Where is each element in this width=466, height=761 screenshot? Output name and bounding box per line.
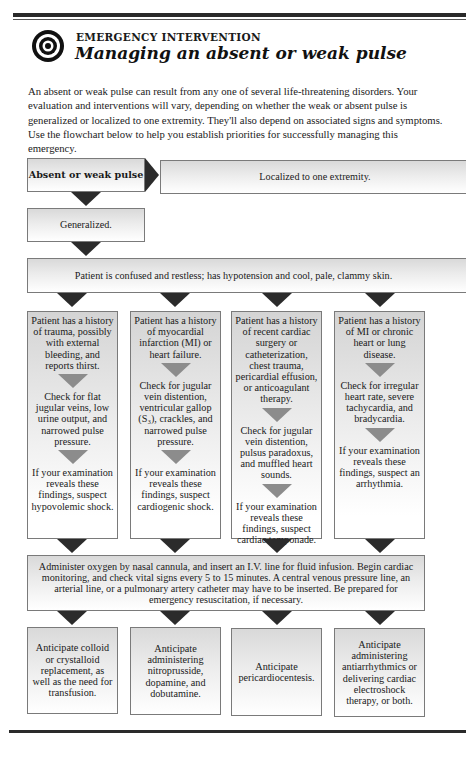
localized-label: Localized to one extremity. xyxy=(259,171,370,182)
arrow-down-icon xyxy=(262,539,292,553)
check-text: Check for jugular vein distention, ventr… xyxy=(134,380,217,447)
anticipate-text: Anticipate colloid or crystalloid replac… xyxy=(31,642,114,698)
check-text: Check for irregular heart rate, severe t… xyxy=(338,380,421,425)
arrow-down-icon xyxy=(71,192,101,206)
arrow-down-icon xyxy=(160,293,190,307)
suspect-text: If your examination reveals these findin… xyxy=(338,445,421,490)
localized-box: Localized to one extremity. xyxy=(160,160,466,194)
presentation-label: Patient is confused and restless; has hy… xyxy=(75,270,392,281)
arrow-right-icon xyxy=(145,158,159,192)
suspect-text: If your examination reveals these findin… xyxy=(134,467,217,512)
anticipate-box-3: Anticipate pericardiocentesis. xyxy=(231,628,322,716)
arrow-down-icon xyxy=(161,363,191,377)
start-label: Absent or weak pulse xyxy=(29,169,144,180)
arrow-down-icon xyxy=(365,539,395,553)
history-text: Patient has a history of MI or chronic h… xyxy=(338,315,421,360)
arrow-down-icon xyxy=(365,428,395,442)
generalized-label: Generalized. xyxy=(60,219,112,230)
history-text: Patient has a history of trauma, possibl… xyxy=(31,315,114,371)
arrow-down-icon xyxy=(262,611,292,625)
history-text: Patient has a history of recent cardiac … xyxy=(235,315,318,405)
assessment-column-3: Patient has a history of recent cardiac … xyxy=(231,311,322,539)
arrow-down-icon xyxy=(57,293,87,307)
arrow-down-icon xyxy=(262,293,292,307)
arrow-down-icon xyxy=(365,293,395,307)
anticipate-text: Anticipate administering antiarrhythmics… xyxy=(338,639,421,706)
presentation-box: Patient is confused and restless; has hy… xyxy=(27,258,466,293)
anticipate-text: Anticipate administering nitroprusside, … xyxy=(134,643,217,699)
arrow-down-icon xyxy=(57,539,87,553)
generalized-box: Generalized. xyxy=(27,208,145,242)
page-title: Managing an absent or weak pulse xyxy=(75,43,407,63)
assessment-column-4: Patient has a history of MI or chronic h… xyxy=(334,311,425,539)
common-intervention-text: Administer oxygen by nasal cannula, and … xyxy=(36,561,416,606)
common-intervention-box: Administer oxygen by nasal cannula, and … xyxy=(27,555,425,611)
anticipate-box-4: Anticipate administering antiarrhythmics… xyxy=(334,628,425,717)
arrow-down-icon xyxy=(58,374,88,388)
anticipate-text: Anticipate pericardiocentesis. xyxy=(235,661,318,683)
arrow-down-icon xyxy=(57,611,87,625)
suspect-text: If your examination reveals these findin… xyxy=(31,467,114,512)
arrow-down-icon xyxy=(71,242,101,256)
arrow-down-icon xyxy=(58,450,88,464)
arrow-down-icon xyxy=(160,611,190,625)
arrow-down-icon xyxy=(365,363,395,377)
intro-paragraph: An absent or weak pulse can result from … xyxy=(28,84,448,155)
arrow-down-icon xyxy=(262,408,292,422)
target-icon xyxy=(31,29,65,63)
arrow-down-icon xyxy=(365,611,395,625)
anticipate-box-2: Anticipate administering nitroprusside, … xyxy=(130,627,221,715)
check-text: Check for flat jugular veins, low urine … xyxy=(31,391,114,447)
assessment-column-2: Patient has a history of myocardial infa… xyxy=(130,311,221,539)
anticipate-box-1: Anticipate colloid or crystalloid replac… xyxy=(27,627,118,714)
top-rule xyxy=(13,13,466,17)
top-rule-thin xyxy=(13,19,466,20)
section-kicker: EMERGENCY INTERVENTION xyxy=(76,31,261,43)
arrow-down-icon xyxy=(262,484,292,498)
check-text: Check for jugular vein distention, pulsu… xyxy=(235,425,318,481)
assessment-column-1: Patient has a history of trauma, possibl… xyxy=(27,311,118,539)
arrow-down-icon xyxy=(161,450,191,464)
start-box: Absent or weak pulse xyxy=(27,158,145,192)
arrow-down-icon xyxy=(160,539,190,553)
bottom-rule xyxy=(9,730,466,733)
history-text: Patient has a history of myocardial infa… xyxy=(134,315,217,360)
